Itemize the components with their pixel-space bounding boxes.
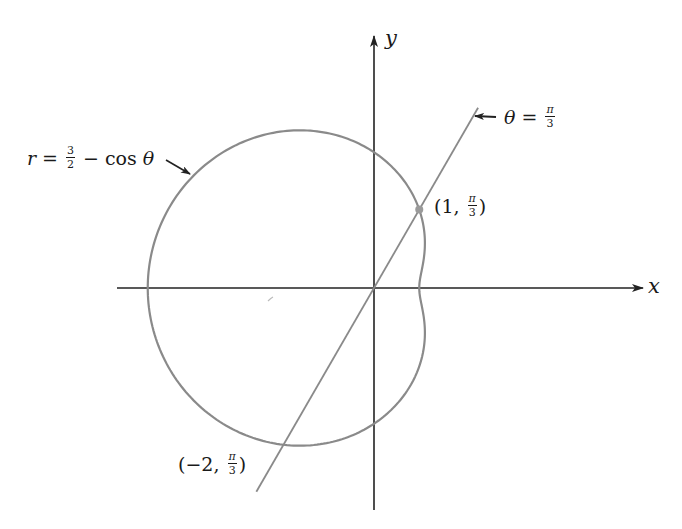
y-axis-label: y <box>385 28 397 49</box>
curve-label-arrow <box>166 160 190 174</box>
curve-label-cos: cos <box>105 147 137 169</box>
fraction-numerator: π <box>545 104 554 117</box>
comma: , <box>213 453 219 475</box>
point-theta-fraction: π3 <box>228 451 237 476</box>
curve-label-theta: θ <box>143 147 154 169</box>
line-label-eq: = <box>521 106 537 128</box>
point-r-value: −2 <box>185 453 213 475</box>
intersection-point-marker <box>415 206 423 214</box>
point-theta-fraction: π3 <box>468 193 477 218</box>
curve-equation-label: r=32−cos θ <box>27 147 154 172</box>
polar-diagram <box>0 0 682 529</box>
fraction-denominator: 2 <box>67 158 74 170</box>
point-label-1-pi-3: (1, π3) <box>434 195 486 220</box>
line-label-arrow <box>475 116 496 117</box>
comma: , <box>454 195 460 217</box>
fraction-denominator: 3 <box>229 464 236 476</box>
fraction-denominator: 3 <box>546 117 553 129</box>
curve-label-eq: = <box>42 147 58 169</box>
curve-label-minus: − <box>83 147 99 169</box>
fraction-numerator: π <box>468 193 477 206</box>
x-axis-label: x <box>648 276 660 297</box>
line-equation-label: θ=π3 <box>504 106 557 131</box>
point-label-neg2-pi-3: (−2, π3) <box>178 453 246 478</box>
paren-close: ) <box>479 195 486 217</box>
paren-close: ) <box>239 453 246 475</box>
stray-mark <box>268 297 273 301</box>
fraction-numerator: π <box>228 451 237 464</box>
curve-label-r: r <box>27 147 36 169</box>
fraction-denominator: 3 <box>469 206 476 218</box>
theta-line <box>256 108 478 492</box>
line-label-theta: θ <box>504 106 515 128</box>
fraction-numerator: 3 <box>66 145 75 158</box>
line-label-fraction: π3 <box>545 104 554 129</box>
point-r-value: 1 <box>441 195 453 217</box>
curve-label-fraction: 32 <box>66 145 75 170</box>
